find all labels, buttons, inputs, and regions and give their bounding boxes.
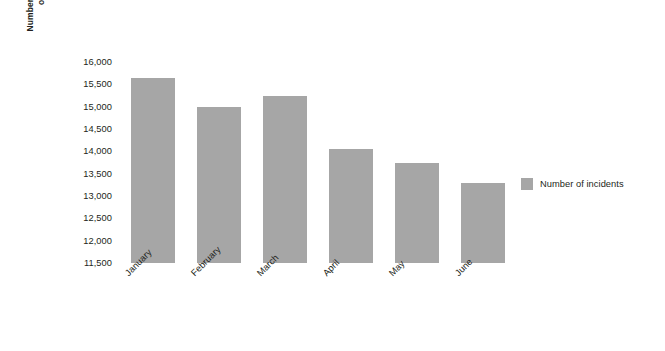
y-axis-tick-label: 11,500 (58, 258, 112, 268)
y-axis-title: Number of incidents opened (22, 0, 50, 90)
y-axis-tick-label: 16,000 (58, 57, 112, 67)
y-axis-tick-label: 14,500 (58, 124, 112, 134)
y-axis-tick-label: 13,500 (58, 169, 112, 179)
x-axis-tick-labels: JanuaryFebruaryMarchAprilMayJune (118, 263, 510, 323)
y-axis-tick-labels: 16,00015,50015,00014,50014,00013,50013,0… (58, 0, 112, 351)
y-axis-tick-label: 15,000 (58, 102, 112, 112)
plot-area (118, 62, 510, 263)
y-axis-tick-label: 15,500 (58, 79, 112, 89)
y-axis-tick-label: 12,500 (58, 213, 112, 223)
y-axis-tick-label: 12,000 (58, 236, 112, 246)
bar-may[interactable] (395, 163, 439, 264)
bar-january[interactable] (131, 78, 175, 263)
bar-april[interactable] (329, 149, 373, 263)
y-axis-tick-label: 13,000 (58, 191, 112, 201)
y-axis-tick-label: 14,000 (58, 146, 112, 156)
legend-swatch (521, 178, 533, 190)
chart-legend: Number of incidents (521, 178, 624, 190)
bar-june[interactable] (461, 183, 505, 263)
bar-march[interactable] (263, 96, 307, 264)
legend-label: Number of incidents (540, 179, 624, 190)
bar-chart: Number of incidents opened 16,00015,5001… (0, 0, 665, 351)
bar-february[interactable] (197, 107, 241, 263)
